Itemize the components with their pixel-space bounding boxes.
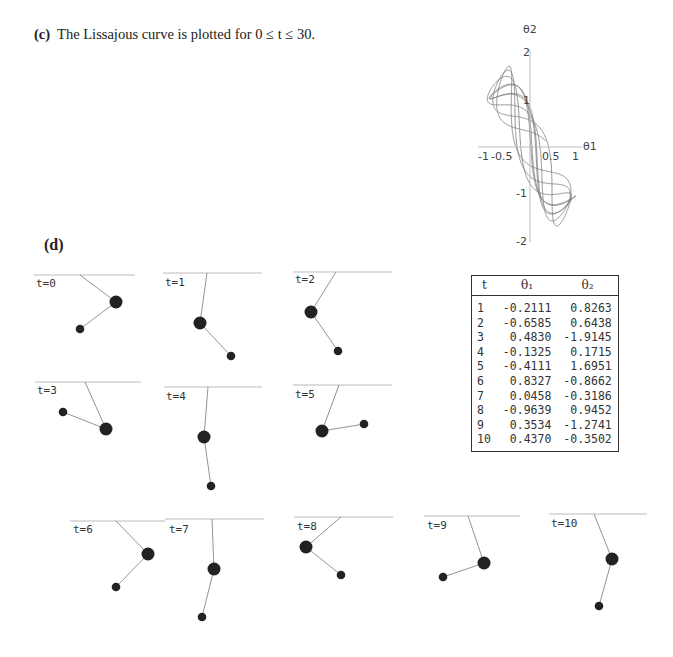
bob-1 [606,553,619,566]
bob-2 [595,602,604,611]
double-pendulum [0,0,673,657]
rod-2 [599,559,612,606]
rod-1 [594,514,612,559]
frame-label: t=10 [551,517,578,530]
